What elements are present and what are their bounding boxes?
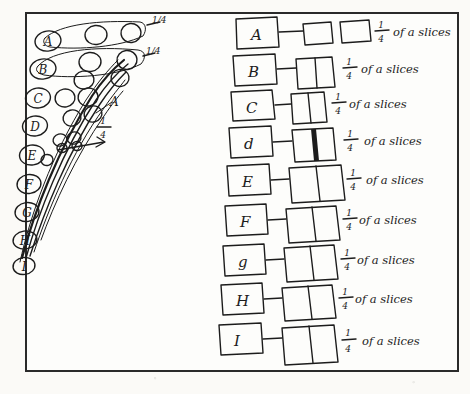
row-letter-a: A: [249, 26, 262, 44]
row-a-denominator: 4: [377, 34, 384, 44]
list-row: H 1 4 of a slices: [221, 283, 413, 321]
row-f-denominator: 4: [345, 222, 352, 232]
row-d-phrase: of a slices: [364, 134, 422, 148]
row-f-phrase: of a slices: [359, 213, 417, 227]
list-row: A 1 4 of a slices: [236, 17, 451, 49]
row-a-phrase: of a slices: [393, 25, 451, 39]
row-h-phrase: of a slices: [355, 292, 413, 306]
row-b-denominator: 4: [345, 71, 352, 81]
row-g-numerator: 1: [344, 248, 350, 258]
right-list-strokes: A 1 4 of a slices B 1 4 of a slices C 1: [0, 0, 470, 394]
row-letter-h: H: [235, 292, 250, 310]
scanned-page: 1/4 1/4 1 4 A A B C D E F G H I: [0, 0, 470, 394]
row-h-numerator: 1: [342, 287, 348, 297]
row-g-denominator: 4: [343, 262, 350, 272]
list-row: F 1 4 of a slices: [225, 204, 417, 243]
row-letter-i: I: [233, 332, 241, 350]
list-row: I 1 4 of a slices: [219, 323, 420, 365]
row-e-numerator: 1: [350, 168, 356, 178]
list-row: g 1 4 of a slices: [223, 244, 415, 282]
row-d-numerator: 1: [347, 129, 353, 139]
row-c-numerator: 1: [335, 92, 341, 102]
list-row: B 1 4 of a slices: [233, 54, 419, 89]
list-row: E 1 4 of a slices: [227, 164, 424, 203]
row-letter-g: g: [238, 253, 248, 271]
row-c-denominator: 4: [334, 106, 341, 116]
row-i-denominator: 4: [344, 344, 351, 354]
row-e-phrase: of a slices: [366, 173, 424, 187]
row-letter-c: C: [246, 99, 258, 117]
row-c-phrase: of a slices: [349, 97, 407, 111]
row-letter-b: B: [247, 63, 259, 81]
row-i-phrase: of a slices: [362, 334, 420, 348]
row-e-denominator: 4: [349, 182, 356, 192]
row-d-denominator: 4: [346, 143, 353, 153]
row-h-denominator: 4: [341, 301, 348, 311]
row-b-numerator: 1: [346, 57, 352, 67]
row-f-numerator: 1: [346, 208, 352, 218]
row-b-phrase: of a slices: [361, 62, 419, 76]
row-a-numerator: 1: [378, 20, 384, 30]
row-letter-d: d: [244, 135, 254, 153]
row-letter-e: E: [241, 173, 253, 191]
list-row: d 1 4 of a slices: [229, 126, 422, 162]
row-i-numerator: 1: [345, 328, 351, 338]
row-g-phrase: of a slices: [357, 253, 415, 267]
row-letter-f: F: [239, 213, 251, 231]
list-row: C 1 4 of a slices: [231, 90, 407, 124]
